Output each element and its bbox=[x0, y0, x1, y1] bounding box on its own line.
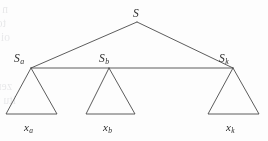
node-label-s-a: Sa bbox=[14, 53, 24, 65]
leaf-label-x-a: xa bbox=[24, 122, 33, 133]
leaf-label-x-k-subscript: k bbox=[231, 126, 235, 135]
node-label-s: S bbox=[133, 8, 139, 20]
root-edge-to-s-a bbox=[31, 22, 137, 68]
triangle-s-k bbox=[208, 68, 259, 114]
node-label-s-a-subscript: a bbox=[20, 57, 24, 66]
node-label-s-b: Sb bbox=[99, 53, 109, 65]
node-label-s-b-subscript: b bbox=[105, 57, 109, 66]
node-label-s-base: S bbox=[133, 7, 139, 19]
triangle-s-a bbox=[6, 68, 57, 114]
leaf-label-x-b-subscript: b bbox=[108, 126, 112, 135]
triangle-s-b bbox=[86, 68, 135, 114]
parse-tree-figure: n wen zinemugns zin ezusced ,ewonz ai ti… bbox=[0, 0, 268, 141]
leaf-label-x-a-subscript: a bbox=[29, 126, 33, 135]
leaf-label-x-k: xk bbox=[226, 122, 235, 133]
node-label-s-a-base: S bbox=[14, 52, 20, 64]
leaf-label-x-b: xb bbox=[103, 122, 112, 133]
node-label-s-k-base: S bbox=[219, 52, 225, 64]
tree-graphics bbox=[0, 0, 268, 141]
node-label-s-k: Sk bbox=[219, 53, 229, 65]
node-label-s-b-base: S bbox=[99, 52, 105, 64]
node-label-s-k-subscript: k bbox=[225, 57, 229, 66]
